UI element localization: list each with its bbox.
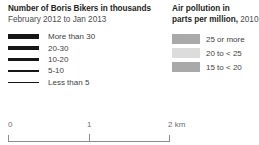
legend-item-label: 20-30 (44, 44, 68, 53)
scale-bar: 0 1 2 km (8, 120, 178, 144)
legend-item-label: Less than 5 (44, 78, 89, 87)
line-swatch-wrap (8, 58, 44, 61)
scale-label-start: 0 (8, 120, 12, 129)
legend-item: 15 to < 20 (172, 60, 258, 74)
legend-item: 5-10 (8, 65, 158, 76)
bikes-legend-subtitle: February 2012 to Jan 2013 (8, 14, 158, 25)
legend-item: 25 or more (172, 32, 258, 46)
line-swatch-wrap (8, 70, 44, 72)
line-swatch-wrap (8, 46, 44, 50)
line-swatch-icon (8, 46, 39, 50)
scale-tick-start (8, 135, 9, 142)
legend-item-label: 25 or more (200, 35, 245, 44)
legend-item-label: More than 30 (44, 32, 95, 41)
legend-item: 10-20 (8, 54, 158, 65)
color-swatch-icon (172, 48, 200, 58)
legend-item-label: 15 to < 20 (200, 63, 242, 72)
pollution-legend: Air pollution in parts per million, 2010… (172, 4, 258, 74)
line-swatch-icon (8, 34, 39, 39)
legend-item-label: 5-10 (44, 66, 64, 75)
scale-tick-end (169, 135, 170, 142)
legend-item-label: 10-20 (44, 55, 68, 64)
scale-label-end: 2 km (168, 120, 185, 129)
color-swatch-icon (172, 34, 200, 44)
line-swatch-icon (8, 82, 39, 83)
legend-item: More than 30 (8, 31, 158, 42)
scale-label-mid: 1 (87, 120, 91, 129)
scale-bar-graphic (8, 134, 178, 145)
bikes-legend-title: Number of Boris Bikers in thousands (8, 4, 158, 14)
legend-item: 20 to < 25 (172, 46, 258, 60)
legend-item: Less than 5 (8, 77, 158, 88)
pollution-legend-keys: 25 or more 20 to < 25 15 to < 20 (172, 32, 258, 74)
color-swatch-icon (172, 62, 200, 72)
line-swatch-icon (8, 58, 39, 61)
legend-item-label: 20 to < 25 (200, 49, 242, 58)
legend-item: 20-30 (8, 42, 158, 53)
pollution-legend-year: 2010 (240, 15, 258, 24)
scale-tick-mid (89, 134, 90, 142)
pollution-legend-title-line1: Air pollution in (172, 4, 258, 15)
pollution-legend-title-text: parts per million, (172, 15, 238, 24)
pollution-legend-title-line2: parts per million, 2010 (172, 15, 258, 26)
bikes-legend-keys: More than 30 20-30 10-20 5-10 Less than (8, 31, 158, 88)
line-swatch-wrap (8, 34, 44, 39)
line-swatch-wrap (8, 82, 44, 83)
bikes-legend: Number of Boris Bikers in thousands Febr… (8, 4, 158, 88)
line-swatch-icon (8, 70, 39, 72)
scale-bar-labels: 0 1 2 km (8, 120, 178, 131)
